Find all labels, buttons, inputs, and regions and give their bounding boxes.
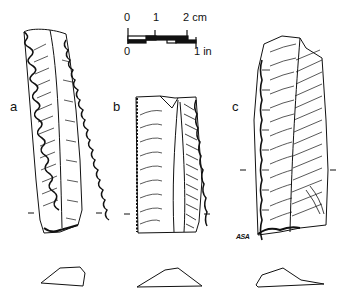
blade-a-drawing	[24, 29, 109, 233]
artifact-label-a: a	[10, 100, 17, 113]
scale-label-1-in: 1 in	[194, 46, 212, 57]
scale-label-2-cm: 2 cm	[183, 12, 207, 23]
illustrator-signature: ASA	[236, 233, 249, 240]
scale-bar	[128, 28, 196, 48]
cross-section-a	[41, 267, 85, 286]
scale-label-1-cm: 1	[153, 12, 159, 23]
scale-label-0-cm: 0	[124, 12, 130, 23]
artifact-label-c: c	[232, 100, 239, 113]
illustration-canvas	[0, 0, 351, 298]
artifact-label-b: b	[113, 100, 120, 113]
scale-label-0-in: 0	[124, 46, 130, 57]
blade-b-drawing	[136, 96, 207, 233]
cross-section-c	[256, 268, 324, 287]
blade-c-drawing	[254, 36, 328, 240]
cross-section-b	[137, 268, 202, 287]
